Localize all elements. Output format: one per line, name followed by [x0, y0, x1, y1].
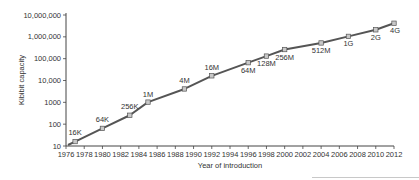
x-tick-label: 2008	[349, 150, 366, 159]
data-point-label: 1M	[143, 90, 153, 99]
data-point-label: 2G	[371, 33, 381, 42]
x-tick-label: 1984	[131, 150, 148, 159]
data-point-marker	[392, 21, 396, 25]
data-point-label: 64M	[241, 66, 256, 75]
x-tick-label: 1976	[58, 150, 75, 159]
x-tick-label: 2012	[386, 150, 403, 159]
x-tick-label: 2000	[276, 150, 293, 159]
data-point-label: 4M	[179, 76, 189, 85]
y-axis: 10100100010,000100,0001,000,00010,000,00…	[23, 11, 66, 151]
data-point-label: 256M	[275, 53, 294, 62]
x-tick-label: 2004	[313, 150, 330, 159]
data-point-label: 512M	[312, 46, 331, 55]
y-tick-label: 1,000,000	[28, 32, 61, 41]
y-tick-label: 10,000,000	[23, 11, 61, 20]
x-tick-label: 1996	[240, 150, 257, 159]
dram-capacity-chart: 10100100010,000100,0001,000,00010,000,00…	[0, 0, 419, 180]
data-point-label: 4G	[390, 26, 400, 35]
x-axis: 1976197819801982198419861988199019921994…	[58, 146, 403, 159]
x-tick-label: 1980	[94, 150, 111, 159]
x-tick-label: 2002	[295, 150, 312, 159]
data-point-marker	[282, 47, 286, 51]
data-point-marker	[182, 87, 186, 91]
data-point-marker	[264, 54, 268, 58]
data-point-label: 16M	[204, 63, 219, 72]
y-tick-label: 1000	[44, 98, 61, 107]
data-point-label: 128M	[257, 59, 276, 68]
divider	[312, 177, 419, 178]
x-tick-label: 1998	[258, 150, 275, 159]
data-point-marker	[73, 139, 77, 143]
data-point-marker	[319, 41, 323, 45]
data-point-marker	[128, 113, 132, 117]
data-point-marker	[346, 34, 350, 38]
x-tick-label: 1988	[167, 150, 184, 159]
x-tick-label: 2010	[367, 150, 384, 159]
x-tick-label: 1994	[222, 150, 239, 159]
y-tick-label: 100	[48, 120, 61, 129]
x-tick-label: 1990	[185, 150, 202, 159]
x-tick-label: 1992	[203, 150, 220, 159]
x-tick-label: 1982	[112, 150, 129, 159]
data-point-label: 256K	[121, 102, 139, 111]
x-tick-label: 2006	[331, 150, 348, 159]
y-tick-label: 100,000	[34, 54, 61, 63]
data-point-marker	[210, 74, 214, 78]
x-tick-label: 1978	[76, 150, 93, 159]
y-tick-label: 10,000	[38, 76, 61, 85]
data-point-label: 64K	[96, 115, 109, 124]
data-point-marker	[374, 28, 378, 32]
data-series: 16K64K256K1M4M16M64M128M256M512M1G2G4G	[68, 21, 400, 145]
y-axis-title: Kibibit capacity	[17, 55, 26, 105]
data-point-marker	[100, 126, 104, 130]
data-point-label: 1G	[343, 39, 353, 48]
data-point-marker	[146, 100, 150, 104]
x-tick-label: 1986	[149, 150, 166, 159]
data-point-label: 16K	[68, 128, 81, 137]
x-axis-title: Year of introduction	[198, 161, 262, 170]
data-point-marker	[246, 60, 250, 64]
